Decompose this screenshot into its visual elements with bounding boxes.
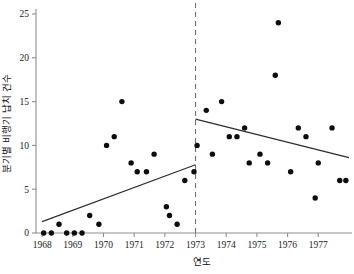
y-axis-tick-marks bbox=[32, 14, 36, 233]
data-point bbox=[79, 230, 84, 235]
data-point bbox=[41, 230, 46, 235]
data-point bbox=[151, 151, 156, 156]
scatter-plot: 0510152025 19681969197019711972197319741… bbox=[0, 0, 354, 274]
data-point bbox=[219, 99, 224, 104]
y-axis-title: 분기별 비행기 납치 건수 bbox=[1, 74, 12, 173]
x-tick-label: 1968 bbox=[33, 240, 52, 250]
data-point bbox=[174, 222, 179, 227]
y-tick-label: 0 bbox=[24, 228, 29, 238]
y-axis-tick-labels: 0510152025 bbox=[20, 9, 30, 238]
data-point bbox=[119, 99, 124, 104]
data-point bbox=[242, 125, 247, 130]
chart-container: 0510152025 19681969197019711972197319741… bbox=[0, 0, 354, 274]
data-point bbox=[72, 230, 77, 235]
data-point bbox=[182, 178, 187, 183]
data-point bbox=[343, 178, 348, 183]
y-tick-label: 5 bbox=[24, 185, 29, 195]
x-tick-label: 1971 bbox=[125, 240, 144, 250]
data-point bbox=[87, 213, 92, 218]
data-point bbox=[204, 108, 209, 113]
x-tick-label: 1975 bbox=[247, 240, 266, 250]
data-point bbox=[49, 230, 54, 235]
data-point bbox=[135, 169, 140, 174]
data-point bbox=[316, 160, 321, 165]
x-tick-label: 1976 bbox=[278, 240, 297, 250]
data-point bbox=[337, 178, 342, 183]
data-point bbox=[144, 169, 149, 174]
data-point bbox=[227, 134, 232, 139]
data-point bbox=[296, 125, 301, 130]
data-point bbox=[265, 160, 270, 165]
data-point bbox=[312, 195, 317, 200]
data-point bbox=[128, 160, 133, 165]
x-tick-label: 1973 bbox=[186, 240, 205, 250]
post-intervention-trend bbox=[196, 119, 349, 158]
data-point bbox=[210, 151, 215, 156]
data-point bbox=[64, 230, 69, 235]
y-tick-label: 20 bbox=[20, 53, 30, 63]
data-point bbox=[56, 222, 61, 227]
data-points-group bbox=[41, 20, 349, 236]
data-point bbox=[104, 143, 109, 148]
x-axis-title: 연도 bbox=[193, 256, 211, 267]
data-point bbox=[273, 73, 278, 78]
data-point bbox=[234, 134, 239, 139]
y-tick-label: 10 bbox=[20, 141, 30, 151]
y-tick-label: 25 bbox=[20, 9, 30, 19]
data-point bbox=[276, 20, 281, 25]
data-point bbox=[329, 125, 334, 130]
data-point bbox=[164, 204, 169, 209]
data-point bbox=[257, 151, 262, 156]
x-tick-label: 1970 bbox=[94, 240, 113, 250]
data-point bbox=[303, 134, 308, 139]
data-point bbox=[191, 169, 196, 174]
data-point bbox=[112, 134, 117, 139]
data-point bbox=[247, 160, 252, 165]
x-tick-label: 1972 bbox=[155, 240, 174, 250]
x-axis-tick-labels: 1968196919701971197219731974197519761977 bbox=[33, 240, 328, 250]
x-tick-label: 1977 bbox=[309, 240, 328, 250]
x-tick-label: 1974 bbox=[217, 240, 236, 250]
y-tick-label: 15 bbox=[20, 97, 30, 107]
data-point bbox=[167, 213, 172, 218]
data-point bbox=[194, 143, 199, 148]
data-point bbox=[288, 169, 293, 174]
pre-intervention-trend bbox=[42, 165, 195, 222]
x-tick-label: 1969 bbox=[63, 240, 82, 250]
data-point bbox=[96, 222, 101, 227]
